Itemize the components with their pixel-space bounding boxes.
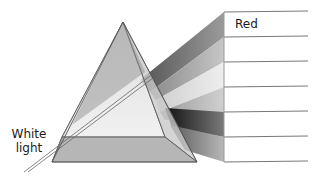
label-red: Red <box>235 17 258 31</box>
label-white-line2: light <box>9 141 49 155</box>
band-lines <box>224 11 308 162</box>
label-white-light: White light <box>9 127 49 155</box>
label-white-line1: White <box>9 127 49 141</box>
